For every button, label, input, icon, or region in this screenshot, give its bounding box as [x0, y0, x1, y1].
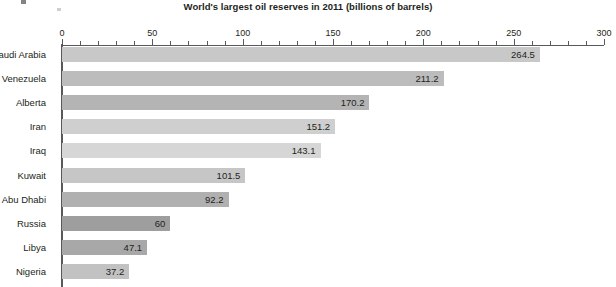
bar	[62, 143, 321, 158]
axis-tick-minor	[532, 41, 533, 45]
bar-value-label: 47.1	[124, 240, 143, 255]
bar	[62, 192, 229, 207]
chart-row: Abu Dhabi92.2	[62, 192, 604, 207]
axis-tick-minor	[315, 41, 316, 45]
bar-value-label: 92.2	[205, 192, 224, 207]
chart-row: Alberta170.2	[62, 95, 604, 110]
axis-tick-minor	[405, 41, 406, 45]
chart-row: Kuwait101.5	[62, 168, 604, 183]
category-label: Iran	[0, 119, 46, 134]
axis-tick-major	[604, 39, 605, 45]
axis-tick-minor	[261, 41, 262, 45]
category-label: Iraq	[0, 143, 46, 158]
axis-tick-minor	[369, 41, 370, 45]
bar	[62, 47, 540, 62]
bar-value-label: 264.5	[511, 47, 535, 62]
axis-tick-major	[514, 39, 515, 45]
chart-row: Iran151.2	[62, 119, 604, 134]
axis-tick-minor	[225, 41, 226, 45]
axis-tick-major	[333, 39, 334, 45]
axis-tick-minor	[550, 41, 551, 45]
axis-tick-major	[152, 39, 153, 45]
axis-tick-major	[423, 39, 424, 45]
plot-area: Saudi Arabia264.5Venezuela211.2Alberta17…	[62, 46, 604, 287]
chart-page: World's largest oil reserves in 2011 (bi…	[0, 0, 616, 287]
axis-tick-minor	[568, 41, 569, 45]
axis-tick-label: 0	[59, 28, 64, 38]
chart-row: Saudi Arabia264.5	[62, 47, 604, 62]
category-label: Venezuela	[0, 71, 46, 86]
bar-value-label: 143.1	[292, 143, 316, 158]
category-label: Abu Dhabi	[0, 192, 46, 207]
category-label: Kuwait	[0, 168, 46, 183]
axis-tick-minor	[586, 41, 587, 45]
axis-tick-minor	[387, 41, 388, 45]
bar-value-label: 60	[155, 216, 166, 231]
axis-tick-label: 200	[416, 28, 431, 38]
axis-tick-minor	[441, 41, 442, 45]
bar	[62, 95, 369, 110]
axis-tick-label: 250	[506, 28, 521, 38]
chart-row: Russia60	[62, 216, 604, 231]
axis-tick-minor	[98, 41, 99, 45]
axis-tick-minor	[351, 41, 352, 45]
axis-tick-label: 50	[147, 28, 157, 38]
chart-row: Libya47.1	[62, 240, 604, 255]
axis-tick-minor	[134, 41, 135, 45]
axis-tick-minor	[188, 41, 189, 45]
axis-tick-minor	[207, 41, 208, 45]
bar-value-label: 37.2	[106, 264, 125, 279]
chart-row: Iraq143.1	[62, 143, 604, 158]
chart-row: Venezuela211.2	[62, 71, 604, 86]
category-label: Libya	[0, 240, 46, 255]
axis-tick-label: 150	[325, 28, 340, 38]
axis-tick-minor	[297, 41, 298, 45]
axis-tick-label: 300	[596, 28, 611, 38]
bar	[62, 119, 335, 134]
axis-tick-minor	[170, 41, 171, 45]
category-label: Russia	[0, 216, 46, 231]
axis-tick-minor	[478, 41, 479, 45]
bar-value-label: 101.5	[217, 168, 241, 183]
chart-row: Nigeria37.2	[62, 264, 604, 279]
chart-title: World's largest oil reserves in 2011 (bi…	[0, 1, 616, 12]
axis-tick-minor	[459, 41, 460, 45]
bar-value-label: 170.2	[341, 95, 365, 110]
axis-tick-minor	[80, 41, 81, 45]
axis-tick-major	[243, 39, 244, 45]
value-axis: 050100150200250300	[62, 24, 604, 46]
category-label: Nigeria	[0, 264, 46, 279]
category-label: Saudi Arabia	[0, 47, 46, 62]
axis-tick-minor	[496, 41, 497, 45]
category-label: Alberta	[0, 95, 46, 110]
axis-tick-label: 100	[235, 28, 250, 38]
bar-value-label: 211.2	[415, 71, 438, 86]
axis-tick-minor	[116, 41, 117, 45]
axis-tick-minor	[279, 41, 280, 45]
bar	[62, 71, 444, 86]
bar-value-label: 151.2	[306, 119, 330, 134]
